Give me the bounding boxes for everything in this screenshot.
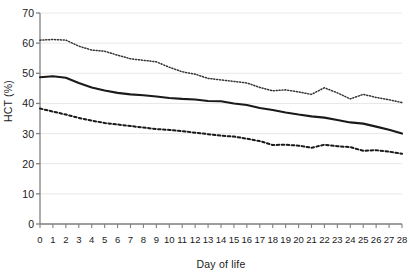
gridlines <box>40 13 402 224</box>
y-tick-label: 20 <box>8 158 34 170</box>
x-axis-title: Day of life <box>40 258 402 270</box>
y-axis-title: HCT (%) <box>2 71 14 131</box>
data-series-layer <box>40 40 402 154</box>
x-tick-label: 28 <box>394 234 410 245</box>
y-tick-label: 0 <box>8 218 34 230</box>
series-line-lower-percentile <box>40 109 402 154</box>
series-line-median <box>40 76 402 133</box>
axis-lines <box>40 13 402 224</box>
series-line-upper-percentile <box>40 40 402 103</box>
y-tick-label: 60 <box>8 37 34 49</box>
y-tick-label: 10 <box>8 188 34 200</box>
y-tick-label: 70 <box>8 7 34 19</box>
